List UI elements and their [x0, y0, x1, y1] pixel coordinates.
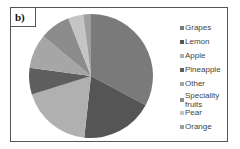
legend-swatch-orange [180, 125, 184, 129]
legend-item-apple: Apple [180, 51, 230, 65]
legend-label: Pineapple [185, 65, 221, 74]
legend-swatch-apple [180, 54, 184, 58]
legend-label: Apple [185, 51, 205, 60]
legend-item-orange: Orange [180, 122, 230, 136]
legend-label: Speciality fruits [185, 91, 219, 109]
legend-label: Lemon [185, 37, 209, 46]
legend-swatch-speciality-fruits [180, 98, 184, 102]
legend-label: Orange [185, 122, 212, 131]
legend-swatch-grapes [180, 26, 184, 30]
legend-item-pineapple: Pineapple [180, 65, 230, 79]
legend-swatch-lemon [180, 40, 184, 44]
legend-label: Pear [185, 108, 202, 117]
legend-item-grapes: Grapes [180, 23, 230, 37]
legend-swatch-pear [180, 111, 184, 115]
panel-label: b) [10, 7, 36, 27]
legend-swatch-other [180, 82, 184, 86]
legend-swatch-pineapple [180, 68, 184, 72]
legend-item-lemon: Lemon [180, 37, 230, 51]
legend-label: Other [185, 79, 205, 88]
legend-label: Grapes [185, 23, 211, 32]
legend-item-pear: Pear [180, 108, 230, 122]
legend-item-speciality-fruits: Speciality fruits [180, 91, 230, 108]
legend: Grapes Lemon Apple Pineapple Other Speci… [180, 23, 230, 136]
